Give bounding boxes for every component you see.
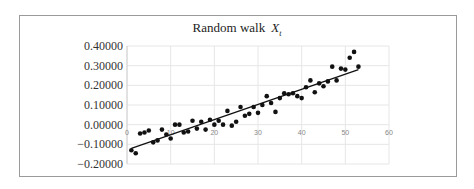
data-point <box>216 118 221 123</box>
data-point <box>138 131 143 136</box>
scatter-plot: 0.400000.300000.200000.100000.00000−0.10… <box>0 0 474 189</box>
data-point <box>317 81 322 86</box>
data-point <box>256 111 261 116</box>
data-point <box>321 84 326 89</box>
data-point <box>186 129 191 134</box>
data-point <box>247 112 252 117</box>
data-point <box>334 78 339 83</box>
data-point <box>295 94 300 99</box>
data-point <box>160 127 165 132</box>
y-tick-label: −0.20000 <box>77 157 123 171</box>
data-point <box>312 90 317 95</box>
data-point <box>164 132 169 137</box>
data-point <box>243 114 248 119</box>
data-point <box>273 110 278 115</box>
y-tick-label: 0.40000 <box>84 39 123 53</box>
data-point <box>230 123 235 128</box>
data-point <box>221 122 226 127</box>
y-tick-label: 0.30000 <box>84 59 123 73</box>
x-tick-label: 0 <box>125 129 129 136</box>
data-point <box>356 64 361 69</box>
data-point <box>225 109 230 114</box>
data-point <box>264 94 269 99</box>
y-tick-label: 0.20000 <box>84 78 123 92</box>
data-point <box>326 79 331 84</box>
data-point <box>251 105 256 110</box>
data-point <box>199 119 204 124</box>
data-point <box>181 130 186 135</box>
data-point <box>208 117 213 122</box>
x-tick-label: 40 <box>298 129 306 136</box>
data-point <box>330 64 335 69</box>
x-tick-label: 30 <box>254 129 262 136</box>
data-point <box>282 91 287 96</box>
data-point <box>190 118 195 123</box>
x-tick-label: 50 <box>341 129 349 136</box>
x-tick-label: 60 <box>385 129 393 136</box>
data-point <box>278 96 283 101</box>
data-point <box>212 122 217 127</box>
y-tick-label: 0.10000 <box>84 98 123 112</box>
data-point <box>291 91 296 96</box>
data-point <box>238 105 243 110</box>
data-point <box>352 50 357 55</box>
data-point <box>343 67 348 72</box>
data-point <box>234 119 239 124</box>
data-point <box>347 56 352 61</box>
data-point <box>286 92 291 97</box>
data-point <box>151 140 156 145</box>
data-point <box>142 130 147 135</box>
data-point <box>147 128 152 133</box>
data-point <box>304 85 309 90</box>
data-point <box>299 96 304 101</box>
data-point <box>260 103 265 108</box>
data-point <box>173 122 178 127</box>
data-point <box>203 127 208 132</box>
data-point <box>269 101 274 106</box>
data-point <box>177 122 182 127</box>
data-point <box>155 138 160 143</box>
data-point <box>168 136 173 141</box>
x-tick-label: 20 <box>210 129 218 136</box>
y-tick-label: −0.10000 <box>77 137 123 151</box>
y-axis-labels: 0.400000.300000.200000.100000.00000−0.10… <box>77 39 123 171</box>
data-point <box>308 78 313 83</box>
y-tick-label: 0.00000 <box>84 118 123 132</box>
data-point <box>339 66 344 71</box>
data-point <box>129 148 134 153</box>
data-point <box>195 126 200 131</box>
data-point <box>133 151 138 156</box>
